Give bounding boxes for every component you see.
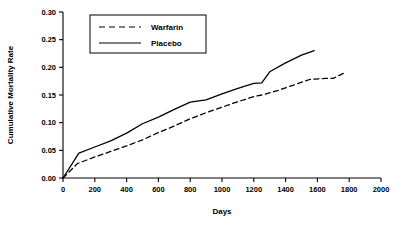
x-tick-label: 800 [184,185,197,194]
x-tick-label: 600 [152,185,165,194]
x-tick-label: 200 [89,185,102,194]
legend-label-warfarin: Warfarin [151,23,183,32]
legend-label-placebo: Placebo [151,39,182,48]
y-tick-label: 0.00 [41,174,56,183]
y-tick-label: 0.05 [41,146,56,155]
x-tick-label: 0 [61,185,65,194]
y-tick-label: 0.15 [41,91,56,100]
chart-canvas: 0.000.050.100.150.200.250.30 02004006008… [0,0,403,229]
x-tick-label: 1400 [277,185,294,194]
chart-legend: Warfarin Placebo [90,15,206,53]
mortality-chart: 0.000.050.100.150.200.250.30 02004006008… [0,0,403,229]
x-tick-label: 1800 [341,185,358,194]
x-tick-label: 1600 [309,185,326,194]
x-axis-title: Days [212,207,232,216]
x-tick-label: 2000 [373,185,390,194]
x-tick-label: 1200 [245,185,262,194]
y-tick-label: 0.25 [41,35,56,44]
legend-box [90,15,206,53]
y-tick-label: 0.30 [41,8,56,17]
y-axis-title: Cumulative Mortality Rate [6,45,15,144]
x-tick-label: 400 [120,185,133,194]
x-tick-label: 1000 [214,185,231,194]
y-tick-label: 0.10 [41,118,56,127]
y-tick-label: 0.20 [41,63,56,72]
